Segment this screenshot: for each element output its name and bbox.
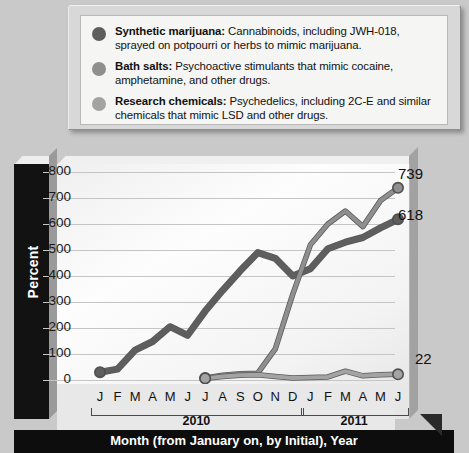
series-endpoint-marker bbox=[393, 183, 403, 193]
data-label-research-chemicals: 22 bbox=[415, 350, 432, 367]
corner-fold-decoration bbox=[420, 414, 442, 436]
legend-dot-icon-synthetic-marijuana bbox=[92, 27, 106, 41]
legend-item-text: Synthetic marijuana: Cannabinoids, inclu… bbox=[115, 25, 436, 52]
series-line-bath-salts bbox=[205, 188, 398, 378]
data-label-bath-salts: 739 bbox=[398, 165, 423, 182]
series-endpoint-marker bbox=[95, 367, 105, 377]
legend-item-text: Research chemicals: Psychedelics, includ… bbox=[115, 95, 436, 122]
legend-item-research-chemicals: Research chemicals: Psychedelics, includ… bbox=[92, 95, 436, 122]
legend-item-synthetic-marijuana: Synthetic marijuana: Cannabinoids, inclu… bbox=[92, 25, 436, 52]
year-label: 2011 bbox=[301, 414, 407, 428]
series-endpoint-marker bbox=[393, 369, 403, 379]
series-endpoint-marker bbox=[200, 373, 210, 383]
legend-term: Synthetic marijuana: bbox=[115, 25, 225, 37]
legend-term: Bath salts: bbox=[115, 60, 172, 72]
legend-panel: Synthetic marijuana: Cannabinoids, inclu… bbox=[68, 5, 461, 130]
x-tick-label: J bbox=[388, 389, 408, 404]
legend-dot-icon-research-chemicals bbox=[92, 97, 106, 111]
legend-item-text: Bath salts: Psychoactive stimulants that… bbox=[115, 60, 436, 87]
chart-lines bbox=[57, 164, 409, 419]
data-label-synthetic-marijuana: 618 bbox=[398, 206, 423, 223]
legend-term: Research chemicals: bbox=[115, 95, 226, 107]
legend-item-bath-salts: Bath salts: Psychoactive stimulants that… bbox=[92, 60, 436, 87]
legend-inner: Synthetic marijuana: Cannabinoids, inclu… bbox=[80, 15, 448, 125]
plot-right-bevel bbox=[409, 147, 418, 419]
year-label: 2010 bbox=[91, 414, 302, 428]
legend-dot-icon-bath-salts bbox=[92, 62, 106, 76]
x-axis-title: Month (from January on, by Initial), Yea… bbox=[14, 433, 454, 448]
